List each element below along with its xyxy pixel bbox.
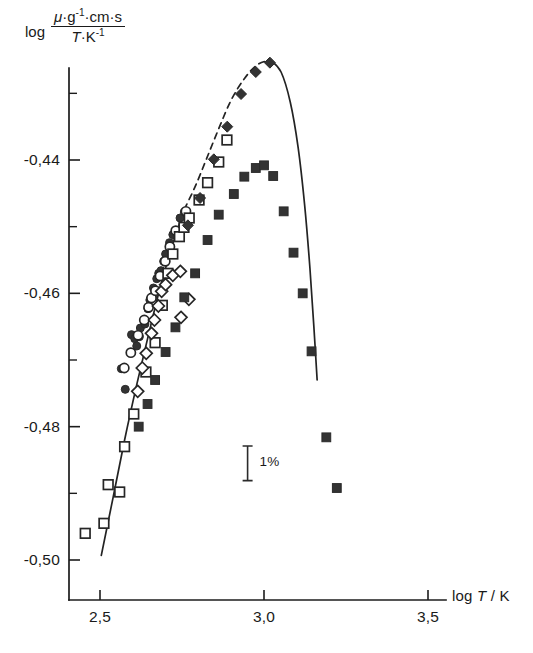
marker-filled-diamond — [250, 67, 261, 78]
y-axis-ticks — [69, 93, 80, 560]
marker-open-square — [80, 529, 90, 539]
fit-curve-solid-lower — [101, 209, 184, 555]
marker-filled-circle — [121, 385, 129, 393]
marker-open-circle — [133, 331, 142, 340]
marker-filled-square — [143, 400, 152, 409]
marker-filled-square — [298, 289, 307, 298]
marker-open-square — [115, 487, 125, 497]
marker-filled-square — [229, 190, 238, 199]
marker-filled-diamond — [222, 121, 233, 132]
marker-open-square — [99, 519, 109, 529]
x-axis-variable: T — [477, 587, 486, 604]
y-tick-label: -0,50 — [2, 551, 60, 569]
marker-open-square — [175, 232, 185, 242]
marker-filled-square — [332, 484, 341, 493]
series-filled-squares — [134, 161, 341, 492]
marker-open-circle — [120, 363, 129, 372]
error-bar-glyph — [243, 446, 253, 481]
series-open-squares — [80, 135, 231, 538]
marker-open-square — [203, 178, 213, 188]
marker-filled-square — [279, 207, 288, 216]
x-tick-label: 2,5 — [72, 608, 128, 626]
marker-filled-diamond — [264, 57, 275, 68]
marker-filled-square — [251, 164, 260, 173]
marker-filled-square — [269, 172, 278, 181]
y-tick-label: -0,48 — [2, 418, 60, 436]
marker-filled-square — [307, 347, 316, 356]
marker-open-square — [120, 442, 130, 452]
annotation-layer — [243, 446, 253, 481]
y-tick-label: -0,46 — [2, 284, 60, 302]
x-axis-ticks — [100, 590, 428, 600]
marker-filled-square — [180, 293, 189, 302]
marker-filled-square — [171, 323, 180, 332]
marker-open-square — [129, 409, 139, 419]
marker-open-square — [103, 480, 113, 490]
error-bar-label: 1% — [260, 454, 280, 469]
figure-container: log μ·g-1·cm·s T·K-1 -0,44-0,46-0,48-0,5… — [0, 0, 533, 653]
fit-curves-layer — [101, 60, 317, 555]
x-tick-label: 3,0 — [236, 608, 292, 626]
marker-open-square — [168, 249, 178, 259]
marker-open-circle — [126, 348, 135, 357]
marker-filled-square — [260, 161, 269, 170]
marker-filled-square — [203, 236, 212, 245]
x-axis-prefix: log — [452, 587, 477, 604]
plot-canvas — [0, 0, 533, 653]
marker-filled-square — [289, 248, 298, 257]
x-tick-label: 3,5 — [400, 608, 456, 626]
marker-filled-diamond — [236, 89, 247, 100]
marker-open-diamond — [175, 311, 187, 323]
fit-curve-solid-descent — [271, 60, 318, 380]
marker-filled-square — [151, 376, 160, 385]
marker-filled-square — [240, 172, 249, 181]
x-axis-title: log T / K — [452, 587, 510, 604]
marker-filled-square — [191, 269, 200, 278]
x-axis-suffix: / K — [486, 587, 509, 604]
marker-filled-square — [322, 433, 331, 442]
marker-open-circle — [144, 303, 153, 312]
marker-open-diamond — [140, 347, 152, 359]
y-tick-label: -0,44 — [2, 151, 60, 169]
marker-filled-square — [134, 422, 143, 431]
marker-filled-square — [214, 210, 223, 219]
marker-open-square — [222, 135, 232, 145]
marker-filled-square — [161, 348, 170, 357]
